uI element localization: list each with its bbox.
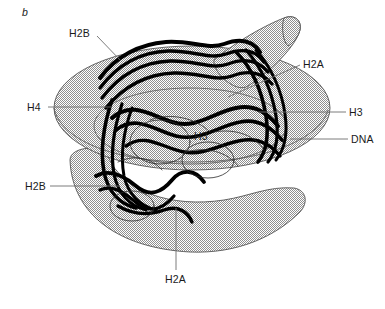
nucleosome-figure: b H2B H2A H4 H3 DNA H3 H2B H2A (0, 0, 385, 309)
label-h3-right: H3 (349, 107, 363, 118)
label-h2a-bottom: H2A (165, 274, 186, 285)
nucleosome-diagram (0, 0, 385, 309)
label-h2a-right: H2A (303, 59, 324, 70)
label-dna-right: DNA (351, 134, 374, 145)
label-h2b-left: H2B (25, 181, 46, 192)
dna-tube-upper-cap (283, 17, 301, 46)
label-h3-inner: H3 (194, 131, 208, 142)
label-h2b-top: H2B (69, 28, 90, 39)
label-h4-left: H4 (27, 102, 41, 113)
panel-label: b (22, 6, 28, 18)
